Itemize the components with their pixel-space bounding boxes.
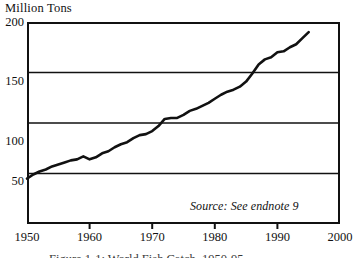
gridlines xyxy=(27,73,340,174)
fish-catch-line-chart: Million Tons 200 150 100 50 1950 1960 19… xyxy=(0,0,360,258)
x-axis-tick-marks xyxy=(90,224,278,229)
source-note: Source: See endnote 9 xyxy=(190,199,299,213)
plot-canvas xyxy=(0,0,360,258)
data-series-line xyxy=(27,32,309,178)
figure-caption: Figure 1-1: World Fish Catch, 1950-95 xyxy=(49,252,349,258)
